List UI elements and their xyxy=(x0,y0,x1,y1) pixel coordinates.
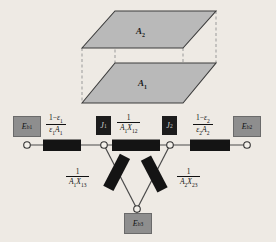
node-eb2[interactable]: Eb2 xyxy=(233,116,261,137)
terminal-eb1 xyxy=(24,142,31,149)
top-plate-area-label: A2 xyxy=(136,27,145,38)
resistor-space-23-body xyxy=(141,155,168,192)
resistor-surface-1-body xyxy=(43,140,81,152)
resistor-surface-2-label: 1−ε2 ε2A2 xyxy=(193,113,213,135)
bottom-plate-surface xyxy=(82,63,216,103)
network-terminals xyxy=(24,142,251,213)
resistor-space-12-body xyxy=(112,140,160,152)
top-plate-surface xyxy=(82,11,216,48)
resistor-space-13-label: 1 A1X13 xyxy=(66,167,89,188)
figure-canvas: A2 A1 Eb1 Eb2 Eb3 J1 J2 1−ε1 ε1A1 1 A1X1… xyxy=(0,0,276,242)
terminal-eb2 xyxy=(244,142,251,149)
resistor-surface-1-label: 1−ε1 ε1A1 xyxy=(46,113,66,135)
node-eb3[interactable]: Eb3 xyxy=(124,213,152,234)
node-j1[interactable]: J1 xyxy=(96,116,111,135)
bottom-plate-area-label: A1 xyxy=(138,79,147,90)
node-eb1[interactable]: Eb1 xyxy=(13,116,41,137)
node-j2[interactable]: J2 xyxy=(162,116,177,135)
network-wires xyxy=(27,145,247,213)
resistor-space-23-label: 1 A2X23 xyxy=(177,167,200,188)
terminal-j1 xyxy=(101,142,108,149)
resistor-space-12-label: 1 A1X12 xyxy=(117,113,140,134)
terminal-j2 xyxy=(167,142,174,149)
plate-geometry xyxy=(82,11,216,103)
resistor-space-13-body xyxy=(103,154,130,191)
terminal-eb3 xyxy=(134,206,141,213)
resistor-surface-2-body xyxy=(190,140,230,152)
